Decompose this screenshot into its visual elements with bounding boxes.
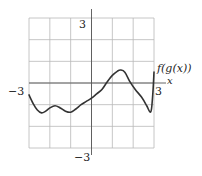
y-max-tick-label: 3	[79, 19, 86, 30]
curve-label: f(g(x))	[157, 63, 191, 74]
y-min-tick-label: −3	[74, 152, 90, 163]
x-min-tick-label: −3	[8, 86, 24, 97]
x-axis-label: x	[167, 76, 173, 86]
x-max-tick-label: 3	[155, 86, 162, 97]
chart-plot	[0, 0, 202, 176]
